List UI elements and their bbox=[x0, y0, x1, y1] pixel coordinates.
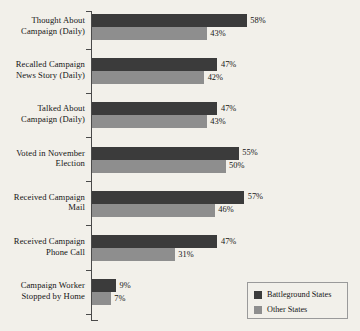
category-label-line: News Story (Daily) bbox=[0, 70, 85, 81]
bar-value-label: 42% bbox=[208, 73, 223, 83]
category-label-line: Election bbox=[0, 158, 85, 169]
bar-value-label: 7% bbox=[114, 294, 125, 304]
legend-item-other[interactable]: Other States bbox=[254, 303, 347, 316]
bar[interactable] bbox=[92, 248, 175, 261]
bar-value-label: 47% bbox=[221, 104, 236, 114]
category-label: Talked AboutCampaign (Daily) bbox=[0, 103, 85, 124]
bar-value-label: 31% bbox=[178, 250, 193, 260]
bar-value-label: 47% bbox=[221, 237, 236, 247]
bar-value-label: 47% bbox=[221, 60, 236, 70]
category-label-line: Campaign (Daily) bbox=[0, 26, 85, 37]
axis-tick bbox=[86, 181, 92, 182]
category-label: Thought AboutCampaign (Daily) bbox=[0, 15, 85, 36]
category-label-line: Stopped by Home bbox=[0, 291, 85, 302]
bar-value-label: 50% bbox=[229, 161, 244, 171]
bar[interactable] bbox=[92, 279, 116, 292]
bar-value-label: 58% bbox=[250, 16, 265, 26]
category-label-line: Recalled Campaign bbox=[0, 59, 85, 70]
legend-item-label: Battleground States bbox=[267, 290, 331, 299]
axis-tick bbox=[86, 225, 92, 226]
category-label: Received CampaignMail bbox=[0, 192, 85, 213]
bar[interactable] bbox=[92, 235, 217, 248]
bar[interactable] bbox=[92, 191, 244, 204]
category-label: Recalled CampaignNews Story (Daily) bbox=[0, 59, 85, 80]
bar-value-label: 55% bbox=[242, 148, 257, 158]
axis-tick bbox=[86, 93, 92, 94]
axis-tick bbox=[86, 314, 92, 315]
bar[interactable] bbox=[92, 292, 111, 305]
bar-value-label: 43% bbox=[210, 29, 225, 39]
bar[interactable] bbox=[92, 147, 239, 160]
bar[interactable] bbox=[92, 27, 207, 40]
category-label-line: Received Campaign bbox=[0, 192, 85, 203]
category-label-line: Mail bbox=[0, 202, 85, 213]
bar-value-label: 46% bbox=[218, 205, 233, 215]
axis-tick bbox=[86, 137, 92, 138]
bar[interactable] bbox=[92, 14, 247, 27]
category-label: Campaign WorkerStopped by Home bbox=[0, 280, 85, 301]
category-label: Received CampaignPhone Call bbox=[0, 236, 85, 257]
legend-swatch-icon bbox=[254, 291, 262, 299]
bar[interactable] bbox=[92, 71, 204, 84]
category-label: Voted in NovemberElection bbox=[0, 148, 85, 169]
bar[interactable] bbox=[92, 58, 217, 71]
category-label-line: Thought About bbox=[0, 15, 85, 26]
bar-value-label: 57% bbox=[248, 192, 263, 202]
category-label-line: Received Campaign bbox=[0, 236, 85, 247]
chart-legend: Battleground States Other States bbox=[247, 282, 348, 319]
category-label-line: Campaign (Daily) bbox=[0, 114, 85, 125]
legend-item-label: Other States bbox=[267, 305, 307, 314]
category-label-line: Voted in November bbox=[0, 148, 85, 159]
bar[interactable] bbox=[92, 204, 215, 217]
bar[interactable] bbox=[92, 102, 217, 115]
category-label-line: Talked About bbox=[0, 103, 85, 114]
bar-value-label: 43% bbox=[210, 117, 225, 127]
axis-tick bbox=[86, 270, 92, 271]
category-label-line: Campaign Worker bbox=[0, 280, 85, 291]
bar[interactable] bbox=[92, 160, 226, 173]
axis-top-cap bbox=[86, 11, 92, 12]
grouped-bar-chart: Thought AboutCampaign (Daily)58%43%Recal… bbox=[0, 0, 360, 331]
legend-item-battleground[interactable]: Battleground States bbox=[254, 288, 347, 301]
bar[interactable] bbox=[92, 115, 207, 128]
legend-swatch-icon bbox=[254, 306, 262, 314]
bar-value-label: 9% bbox=[120, 281, 131, 291]
category-label-line: Phone Call bbox=[0, 247, 85, 258]
axis-tick bbox=[86, 49, 92, 50]
axis-bottom-cap bbox=[91, 320, 98, 321]
